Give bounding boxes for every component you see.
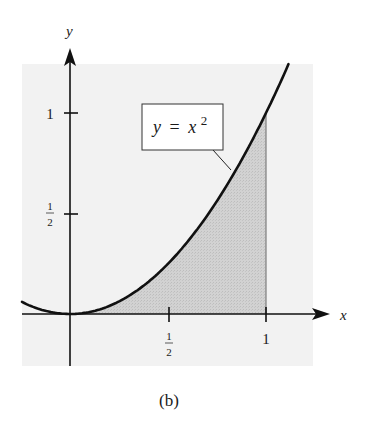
y-tick-label-half-num: 1 bbox=[47, 200, 53, 212]
figure: x y 1 1 2 1 2 1 y = x 2 (b) bbox=[0, 0, 367, 431]
figure-caption: (b) bbox=[159, 391, 179, 410]
equation-label: y = x 2 bbox=[151, 113, 207, 137]
x-tick-label-half-num: 1 bbox=[166, 330, 172, 342]
x-tick-label-1: 1 bbox=[262, 331, 270, 347]
y-tick-label-half-den: 2 bbox=[47, 216, 53, 228]
y-axis-label: y bbox=[64, 23, 73, 39]
x-axis-label: x bbox=[339, 307, 347, 323]
x-tick-label-half-den: 2 bbox=[166, 346, 172, 358]
y-tick-label-1: 1 bbox=[46, 106, 54, 122]
